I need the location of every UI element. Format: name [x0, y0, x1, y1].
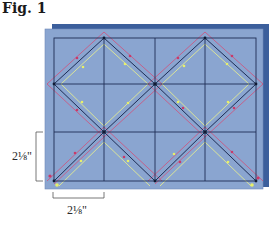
vertical-dimension-bracket	[36, 132, 43, 181]
quilt-grid-diagram	[0, 0, 277, 226]
horizontal-dimension-bracket	[53, 192, 104, 198]
horizontal-dimension-label: 2⅛"	[67, 203, 87, 218]
vertical-dimension-label: 2⅛"	[12, 149, 32, 164]
